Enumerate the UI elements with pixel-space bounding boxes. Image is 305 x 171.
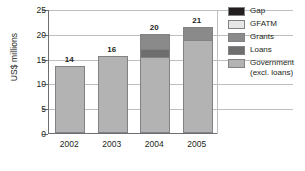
legend-swatch [228, 20, 245, 29]
legend-swatch [228, 59, 245, 68]
bar-value-label: 14 [49, 56, 89, 64]
legend-label: Grants [250, 32, 274, 42]
stacked-bar[interactable] [98, 56, 128, 133]
stacked-bar[interactable] [140, 34, 170, 133]
chart-figure: US$ millions 0510152025 14162021 2002200… [0, 0, 305, 171]
bar-segment[interactable] [141, 57, 169, 132]
legend-label: Loans [250, 45, 272, 55]
bar-segment[interactable] [99, 57, 127, 132]
plot-area [48, 10, 218, 134]
legend-label: Gap [250, 6, 265, 16]
x-axis-tick-label: 2003 [88, 139, 136, 149]
legend-swatch [228, 46, 245, 55]
bar-value-label: 20 [134, 24, 174, 32]
stacked-bar[interactable] [55, 66, 85, 133]
legend-swatch [228, 7, 245, 16]
legend-swatch [228, 33, 245, 42]
legend-item[interactable]: Grants [228, 32, 303, 42]
legend-item[interactable]: Government (excl. loans) [228, 58, 303, 77]
legend-label: GFATM [250, 19, 277, 29]
y-axis-tick-label: 25 [22, 6, 46, 15]
legend-item[interactable]: GFATM [228, 19, 303, 29]
bar-value-label: 21 [177, 17, 217, 25]
bar-segment[interactable] [141, 35, 169, 50]
x-axis-tick-label: 2002 [45, 139, 93, 149]
y-axis-tick-label: 0 [22, 130, 46, 139]
bar-value-label: 16 [92, 46, 132, 54]
x-axis-tick-label: 2005 [173, 139, 221, 149]
legend-label: Government (excl. loans) [250, 58, 294, 77]
y-axis-title: US$ millions [9, 17, 19, 97]
bar-segment[interactable] [141, 49, 169, 57]
y-axis-tick-label: 10 [22, 80, 46, 89]
legend-item[interactable]: Gap [228, 6, 303, 16]
y-axis-tick-label: 15 [22, 56, 46, 65]
bar-segment[interactable] [184, 40, 212, 132]
bar-segment[interactable] [56, 67, 84, 132]
x-axis-tick-label: 2004 [130, 139, 178, 149]
y-axis-tick-label: 5 [22, 105, 46, 114]
stacked-bar[interactable] [183, 27, 213, 133]
y-axis-tick-label: 20 [22, 31, 46, 40]
bar-segment[interactable] [184, 28, 212, 40]
legend-item[interactable]: Loans [228, 45, 303, 55]
chart-legend: GapGFATMGrantsLoansGovernment (excl. loa… [228, 6, 303, 81]
